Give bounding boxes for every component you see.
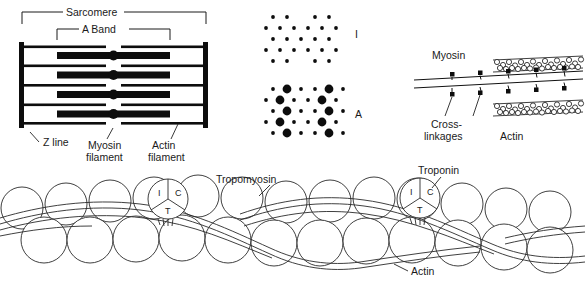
actin-filament xyxy=(121,46,203,49)
bracket-a-band-label: A Band xyxy=(82,23,116,35)
actin-label-thin-filament: Actin xyxy=(411,265,435,277)
actin-filament xyxy=(121,104,203,107)
actin-filament xyxy=(121,84,203,87)
troponin-subunit-c: C xyxy=(175,188,182,198)
m-line-dot xyxy=(109,109,119,119)
muscle-ultrastructure-figure: Sarcomere A Band xyxy=(0,0,585,291)
actin-filament-label-line2: filament xyxy=(148,151,185,163)
sarcomere-annotations: Z line Myosin filament Actin filament xyxy=(30,124,185,163)
bracket-a-band: A Band xyxy=(57,23,170,40)
crosslinkage-annotations: Cross- linkages Actin xyxy=(424,95,524,142)
panel-crossbridge: Myosin xyxy=(414,49,584,142)
bracket-sarcomere: Sarcomere xyxy=(22,6,206,24)
troponin-subunit-c: C xyxy=(427,187,434,197)
actin-filament-label-line1: Actin xyxy=(152,139,176,151)
panel-thin-filament: I C T I C T Tropomyosin Troponin Actin xyxy=(0,164,585,277)
actin-filament xyxy=(24,122,106,125)
figure-canvas: Sarcomere A Band xyxy=(0,0,585,291)
z-line-label: Z line xyxy=(43,136,69,148)
a-band-cross-section: A xyxy=(264,85,362,138)
myosin-filament-label-line2: filament xyxy=(86,151,123,163)
m-line-dot xyxy=(109,70,119,80)
actin-filament xyxy=(24,84,106,87)
cross-linkages-label-line1: Cross- xyxy=(431,118,462,130)
z-line-right xyxy=(203,42,208,128)
actin-strand-bottom xyxy=(493,100,584,116)
actin-filament xyxy=(24,65,106,68)
troponin-subunit-t: T xyxy=(417,205,423,215)
panel-cross-sections: I A xyxy=(264,15,362,137)
troponin-subunit-i: I xyxy=(158,188,161,198)
m-line-dot xyxy=(109,51,119,61)
cross-linkages-label-line2: linkages xyxy=(424,130,463,142)
myosin-rod-lower xyxy=(414,79,583,97)
troponin-subunit-t: T xyxy=(165,206,171,216)
myosin-label: Myosin xyxy=(432,49,465,61)
bracket-sarcomere-label: Sarcomere xyxy=(66,6,118,18)
panel-sarcomere: Sarcomere A Band xyxy=(19,6,208,163)
actin-filament xyxy=(24,46,106,49)
z-line-left xyxy=(19,42,24,128)
troponin-label: Troponin xyxy=(418,164,459,176)
m-line-dots xyxy=(109,51,119,120)
actin-filament xyxy=(24,104,106,107)
actin-filament xyxy=(121,122,203,125)
i-band-section-label: I xyxy=(355,28,358,40)
tropomyosin-label: Tropomyosin xyxy=(216,173,276,185)
actin-filament xyxy=(121,65,203,68)
a-band-section-label: A xyxy=(355,108,362,120)
myosin-filament-label-line1: Myosin xyxy=(88,139,121,151)
m-line-dot xyxy=(109,90,119,100)
troponin-subunit-i: I xyxy=(410,187,413,197)
i-band-cross-section: I xyxy=(264,15,358,63)
actin-label-crossbridge: Actin xyxy=(500,130,524,142)
